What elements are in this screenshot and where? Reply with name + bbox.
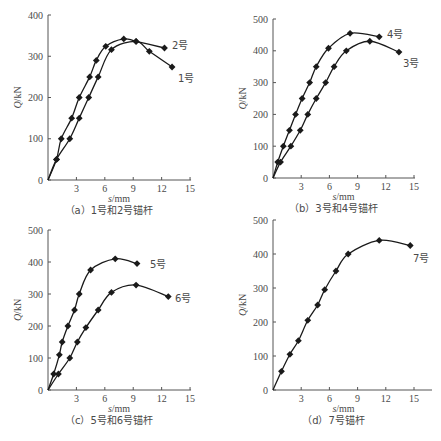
- x-tick-label: 15: [185, 183, 195, 194]
- diamond-marker: [56, 351, 63, 358]
- x-tick-label: 12: [157, 393, 167, 404]
- x-tick-label: 15: [185, 393, 195, 404]
- diamond-marker: [133, 282, 140, 289]
- y-tick-label: 300: [28, 51, 43, 62]
- diamond-marker: [314, 302, 321, 309]
- diamond-marker: [66, 135, 73, 142]
- y-tick-label: 100: [28, 353, 43, 364]
- y-tick-label: 100: [253, 141, 268, 152]
- diamond-marker: [297, 127, 304, 134]
- y-tick-label: 0: [263, 385, 268, 396]
- y-tick-label: 100: [28, 133, 43, 144]
- y-tick-label: 300: [253, 77, 268, 88]
- y-axis-title: Q/kN: [12, 86, 23, 108]
- series-label: 5号: [150, 259, 166, 270]
- x-tick-label: 9: [131, 393, 136, 404]
- series-line: [48, 41, 172, 180]
- y-axis-title: Q/kN: [12, 299, 23, 321]
- series-label: 7号: [413, 253, 429, 264]
- diamond-marker: [134, 260, 141, 267]
- diamond-marker: [165, 293, 172, 300]
- diamond-marker: [331, 63, 338, 70]
- diamond-marker: [66, 355, 73, 362]
- y-tick-label: 300: [253, 283, 268, 294]
- x-tick-label: 12: [157, 183, 167, 194]
- diamond-marker: [76, 115, 83, 122]
- x-tick-label: 3: [299, 181, 304, 192]
- diamond-marker: [86, 73, 93, 80]
- diamond-marker: [278, 368, 285, 375]
- diamond-marker: [366, 38, 373, 45]
- diamond-marker: [280, 143, 287, 150]
- diamond-marker: [407, 242, 414, 249]
- panel-caption: （b）3号和4号锚杆: [289, 203, 378, 214]
- y-tick-label: 300: [28, 289, 43, 300]
- chart-panel-d: 01002003004005003691215s/mmQ/kN（d）7号锚杆7号: [237, 215, 432, 427]
- panel-caption: （a）1号和2号锚杆: [65, 205, 154, 216]
- y-tick-label: 0: [38, 385, 43, 396]
- x-tick-label: 6: [327, 181, 332, 192]
- diamond-marker: [333, 268, 340, 275]
- y-tick-label: 0: [263, 173, 268, 184]
- series-label: 6号: [175, 293, 191, 304]
- diamond-marker: [76, 94, 83, 101]
- diamond-marker: [58, 135, 65, 142]
- x-axis-title: s/mm: [332, 403, 354, 414]
- x-tick-label: 12: [381, 393, 391, 404]
- x-tick-label: 3: [74, 393, 79, 404]
- x-axis-title: s/mm: [108, 193, 130, 204]
- x-axis-title: s/mm: [332, 191, 354, 202]
- diamond-marker: [133, 38, 140, 45]
- series-line: [273, 240, 410, 390]
- y-tick-label: 400: [28, 257, 43, 268]
- y-axis-title: Q/kN: [237, 87, 248, 109]
- diamond-marker: [299, 95, 306, 102]
- diamond-marker: [287, 143, 294, 150]
- chart-panel-b: 01002003004005003691215s/mmQ/kN（b）3号和4号锚…: [237, 14, 419, 215]
- y-tick-label: 400: [28, 10, 43, 21]
- diamond-marker: [71, 307, 78, 314]
- diamond-marker: [76, 291, 83, 298]
- x-tick-label: 3: [299, 393, 304, 404]
- diamond-marker: [59, 339, 66, 346]
- x-tick-label: 15: [409, 181, 419, 192]
- series-label: 3号: [403, 58, 419, 69]
- y-tick-label: 200: [28, 92, 43, 103]
- panel-caption: （d）7号锚杆: [302, 415, 365, 426]
- y-tick-label: 200: [253, 109, 268, 120]
- x-tick-label: 15: [409, 393, 419, 404]
- figure-canvas: 01002003004003691215s/mmQ/kN（a）1号和2号锚杆2号…: [0, 0, 441, 441]
- diamond-marker: [161, 45, 168, 52]
- x-tick-label: 9: [355, 393, 360, 404]
- series-label: 4号: [387, 29, 403, 40]
- diamond-marker: [306, 79, 313, 86]
- series-line: [48, 39, 164, 180]
- y-tick-label: 400: [253, 249, 268, 260]
- y-axis-title: Q/kN: [237, 294, 248, 316]
- diamond-marker: [53, 156, 60, 163]
- x-axis-title: s/mm: [108, 403, 130, 414]
- y-tick-label: 200: [253, 317, 268, 328]
- diamond-marker: [347, 30, 354, 37]
- y-tick-label: 0: [38, 175, 43, 186]
- x-tick-label: 9: [355, 181, 360, 192]
- diamond-marker: [93, 57, 100, 64]
- y-tick-label: 400: [253, 45, 268, 56]
- x-tick-label: 6: [327, 393, 332, 404]
- series-line: [273, 33, 379, 178]
- diamond-marker: [292, 111, 299, 118]
- diamond-marker: [313, 95, 320, 102]
- diamond-marker: [112, 255, 119, 262]
- series-label: 2号: [172, 40, 188, 51]
- x-tick-label: 6: [102, 393, 107, 404]
- chart-panel-c: 01002003004005003691215s/mmQ/kN（c）5号和6号锚…: [12, 225, 195, 427]
- chart-panel-a: 01002003004003691215s/mmQ/kN（a）1号和2号锚杆2号…: [12, 10, 195, 217]
- diamond-marker: [68, 115, 75, 122]
- x-tick-label: 12: [381, 181, 391, 192]
- panel-caption: （c）5号和6号锚杆: [65, 415, 153, 426]
- diamond-marker: [376, 33, 383, 40]
- diamond-marker: [322, 79, 329, 86]
- diamond-marker: [74, 339, 81, 346]
- x-tick-label: 9: [131, 183, 136, 194]
- diamond-marker: [120, 36, 127, 43]
